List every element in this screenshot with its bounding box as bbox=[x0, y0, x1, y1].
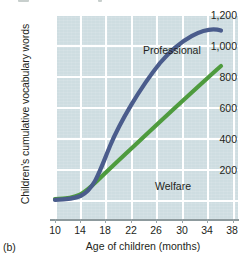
x-tick-label-38: 38 bbox=[219, 224, 241, 236]
y-tick-label-800: 800 bbox=[189, 71, 241, 83]
y-tick-label-1000: 1,000 bbox=[189, 40, 241, 52]
gridline-vertical-18 bbox=[105, 14, 107, 219]
panel-letter: (b) bbox=[3, 241, 16, 253]
gridline-vertical-10 bbox=[55, 14, 57, 219]
series-label-welfare: Welfare bbox=[155, 180, 191, 192]
x-tick-label-14: 14 bbox=[67, 224, 93, 236]
figure-panel-b: Children's cumulative vocabulary words P… bbox=[0, 0, 241, 265]
x-tick-label-22: 22 bbox=[118, 224, 144, 236]
x-tick-label-30: 30 bbox=[169, 224, 195, 236]
x-tickmark-34 bbox=[207, 219, 208, 223]
gridline-vertical-14 bbox=[80, 14, 82, 219]
x-tick-label-18: 18 bbox=[92, 224, 118, 236]
y-axis-title: Children's cumulative vocabulary words bbox=[19, 14, 31, 214]
gridline-vertical-22 bbox=[131, 14, 133, 219]
cropped-title-artifact bbox=[0, 0, 241, 8]
x-tick-label-10: 10 bbox=[42, 224, 68, 236]
x-axis-line bbox=[50, 219, 239, 221]
x-tickmark-38 bbox=[233, 219, 234, 223]
crop-fragment-right bbox=[98, 0, 102, 2]
x-tickmark-30 bbox=[182, 219, 183, 223]
y-tick-label-600: 600 bbox=[189, 102, 241, 114]
y-tick-label-400: 400 bbox=[189, 133, 241, 145]
y-tick-label-1200: 1,200 bbox=[189, 9, 241, 21]
x-tick-label-26: 26 bbox=[143, 224, 169, 236]
x-tickmark-18 bbox=[105, 219, 106, 223]
y-tick-label-200: 200 bbox=[189, 164, 241, 176]
x-tickmark-10 bbox=[55, 219, 56, 223]
x-tick-label-34: 34 bbox=[194, 224, 220, 236]
x-tickmark-22 bbox=[131, 219, 132, 223]
x-tickmark-26 bbox=[156, 219, 157, 223]
gridline-horizontal-0 bbox=[55, 200, 238, 202]
crop-fragment-left bbox=[18, 0, 29, 2]
x-axis-title: Age of children (months) bbox=[45, 240, 241, 252]
x-tickmark-14 bbox=[80, 219, 81, 223]
